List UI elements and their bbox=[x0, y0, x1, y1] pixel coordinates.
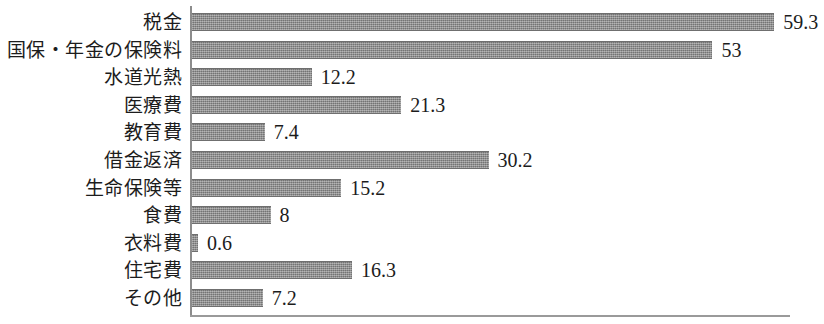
bar-and-value: 53 bbox=[192, 41, 741, 59]
bar-and-value: 12.2 bbox=[192, 68, 356, 86]
category-label: 国保・年金の保険料 bbox=[7, 40, 183, 59]
bar bbox=[192, 13, 774, 31]
bar-and-value: 21.3 bbox=[192, 96, 445, 114]
bar bbox=[192, 96, 401, 114]
bar bbox=[192, 41, 712, 59]
category-label: 借金返済 bbox=[104, 151, 182, 170]
bar bbox=[192, 206, 271, 224]
bar-value-label: 53 bbox=[721, 40, 741, 60]
bar-value-label: 16.3 bbox=[361, 260, 396, 280]
bar bbox=[192, 289, 263, 307]
bar-row: 食費8 bbox=[0, 204, 824, 226]
bar bbox=[192, 234, 198, 252]
bar-value-label: 30.2 bbox=[498, 150, 533, 170]
bar-and-value: 7.4 bbox=[192, 123, 299, 141]
bar-and-value: 8 bbox=[192, 206, 290, 224]
category-label: 住宅費 bbox=[124, 261, 183, 280]
bar-value-label: 15.2 bbox=[350, 178, 385, 198]
category-label: その他 bbox=[124, 289, 183, 308]
bar-row: 衣料費0.6 bbox=[0, 232, 824, 254]
bar-row: 借金返済30.2 bbox=[0, 149, 824, 171]
bar-and-value: 7.2 bbox=[192, 289, 297, 307]
category-label: 医療費 bbox=[124, 95, 183, 114]
bar-value-label: 12.2 bbox=[321, 67, 356, 87]
category-label: 教育費 bbox=[124, 123, 183, 142]
bar bbox=[192, 68, 312, 86]
bar-and-value: 0.6 bbox=[192, 234, 232, 252]
bar-rows: 税金59.3国保・年金の保険料53水道光熱12.2医療費21.3教育費7.4借金… bbox=[0, 0, 824, 324]
bar-value-label: 7.4 bbox=[274, 122, 299, 142]
bar-and-value: 15.2 bbox=[192, 179, 385, 197]
category-label: 水道光熱 bbox=[104, 68, 182, 87]
bar-row: 住宅費16.3 bbox=[0, 259, 824, 281]
bar-row: その他7.2 bbox=[0, 287, 824, 309]
bar-value-label: 7.2 bbox=[272, 288, 297, 308]
bar-value-label: 0.6 bbox=[207, 233, 232, 253]
category-label: 食費 bbox=[143, 206, 182, 225]
bar bbox=[192, 261, 352, 279]
bar-value-label: 8 bbox=[280, 205, 290, 225]
category-label: 衣料費 bbox=[124, 233, 183, 252]
bar-row: 医療費21.3 bbox=[0, 94, 824, 116]
bar bbox=[192, 123, 265, 141]
bar-value-label: 59.3 bbox=[783, 12, 818, 32]
bar-and-value: 16.3 bbox=[192, 261, 396, 279]
bar-value-label: 21.3 bbox=[410, 95, 445, 115]
bar bbox=[192, 179, 341, 197]
bar bbox=[192, 151, 489, 169]
category-label: 生命保険等 bbox=[85, 178, 183, 197]
bar-and-value: 30.2 bbox=[192, 151, 533, 169]
bar-row: 税金59.3 bbox=[0, 11, 824, 33]
bar-and-value: 59.3 bbox=[192, 13, 818, 31]
bar-row: 生命保険等15.2 bbox=[0, 177, 824, 199]
bar-row: 水道光熱12.2 bbox=[0, 66, 824, 88]
bar-chart: 税金59.3国保・年金の保険料53水道光熱12.2医療費21.3教育費7.4借金… bbox=[0, 0, 824, 324]
category-label: 税金 bbox=[143, 13, 182, 32]
bar-row: 国保・年金の保険料53 bbox=[0, 39, 824, 61]
bar-row: 教育費7.4 bbox=[0, 121, 824, 143]
